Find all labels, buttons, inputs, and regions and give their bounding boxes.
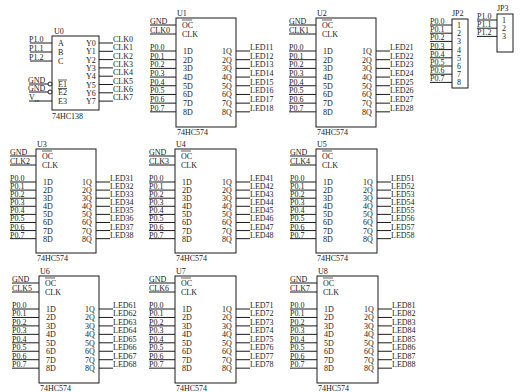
net-label: LED38 xyxy=(110,231,134,240)
net-label: LED22 xyxy=(390,52,414,61)
net-label: LED13 xyxy=(250,60,274,69)
ref-designator: U0 xyxy=(54,27,64,36)
net-label: P0.5 xyxy=(289,86,303,95)
net-label: CLK2 xyxy=(10,157,30,166)
latch-u1: U1GNDOCCLK0CLKP0.01D1QLED11P0.12D2QLED12… xyxy=(150,9,274,137)
ref-designator: U2 xyxy=(317,9,327,18)
pin-number: 8 xyxy=(457,78,461,87)
pin-name: 5Q xyxy=(362,82,372,91)
pin-name: 2D xyxy=(323,56,333,65)
net-label: LED27 xyxy=(390,95,414,104)
net-label: LED21 xyxy=(390,43,414,52)
part-number: 74HC574 xyxy=(37,254,68,263)
pin-name: 3D xyxy=(323,64,333,73)
pin-name: OC xyxy=(182,21,193,30)
vcc-label: Vcc xyxy=(29,93,40,103)
net-label: P0.4 xyxy=(150,78,164,87)
decoder-enables: GND GND Vcc E1 E2 E3 xyxy=(28,76,67,106)
net-label: GND xyxy=(149,275,167,284)
pin-name: 6D xyxy=(323,90,333,99)
pin-name: 7Q xyxy=(362,99,372,108)
pin-name: 8Q xyxy=(364,364,374,373)
latch-u8: U8GNDOCCLK7CLKP0.01D1QLED81P0.12D2QLED82… xyxy=(290,267,416,392)
net-label: CLK1 xyxy=(289,26,309,35)
pin-name: 7D xyxy=(183,99,193,108)
pin-name: 8Q xyxy=(362,108,372,117)
connector-jp3: JP3 P1.01P1.12P1.23 xyxy=(477,4,513,52)
pin-name: 1Q xyxy=(222,47,232,56)
ref-designator: U1 xyxy=(177,9,187,18)
net-label: P0.3 xyxy=(150,69,164,78)
pin-name: 3D xyxy=(183,64,193,73)
pin-name: 3Q xyxy=(362,64,372,73)
part-number: 74HC574 xyxy=(177,128,208,137)
net-label: LED26 xyxy=(390,86,414,95)
pin-name: C xyxy=(58,57,63,66)
pin-name: 3Q xyxy=(222,64,232,73)
ref-designator: U5 xyxy=(317,140,327,149)
net-label: P0.7 xyxy=(149,360,163,369)
ref-designator: U6 xyxy=(40,267,50,276)
schematic-canvas: U0 P1.0 P1.1 P1.2 A B C GND GND Vcc E1 E… xyxy=(0,0,528,392)
pin-name: CLK xyxy=(181,161,197,170)
ref-designator: JP3 xyxy=(497,4,509,13)
net-label: LED88 xyxy=(392,360,416,369)
pin-name: 7D xyxy=(323,99,333,108)
pin-name: 6D xyxy=(183,90,193,99)
net-label: LED78 xyxy=(250,360,274,369)
pin-name: OC xyxy=(322,152,333,161)
decoder-u0: U0 P1.0 P1.1 P1.2 A B C GND GND Vcc E1 E… xyxy=(28,27,133,121)
ref-designator: U4 xyxy=(176,140,186,149)
net-label: LED58 xyxy=(391,231,415,240)
pin-name: A xyxy=(58,39,64,48)
pin-name: OC xyxy=(323,279,334,288)
pin-name: 8Q xyxy=(85,364,95,373)
pin-name: 8D xyxy=(323,108,333,117)
net-label: CLK7 xyxy=(113,93,133,102)
net-label: P0.7 xyxy=(150,104,164,113)
pin-name: 5Q xyxy=(222,82,232,91)
net-label: GND xyxy=(12,275,30,284)
inversion-bubble-icon xyxy=(48,90,52,94)
pin-name: 2Q xyxy=(222,56,232,65)
net-label: LED11 xyxy=(250,43,273,52)
net-label: P0.1 xyxy=(289,52,303,61)
net-label: LED23 xyxy=(390,60,414,69)
decoder-inputs: P1.0 P1.1 P1.2 A B C xyxy=(29,35,64,66)
pin-name: 8D xyxy=(43,235,53,244)
pin-name: 8Q xyxy=(222,108,232,117)
net-label: P0.3 xyxy=(289,69,303,78)
net-label: GND xyxy=(290,148,308,157)
pin-name: CLK xyxy=(42,161,58,170)
latch-u7: U7GNDOCCLK6CLKP0.01D1QLED71P0.12D2QLED72… xyxy=(149,267,274,392)
net-label: LED16 xyxy=(250,86,274,95)
ref-designator: U7 xyxy=(176,267,186,276)
net-label: GND xyxy=(10,148,28,157)
pin-name: 8Q xyxy=(222,364,232,373)
net-label: P0.1 xyxy=(150,52,164,61)
pin-name: 2D xyxy=(183,56,193,65)
net-label: P0.7 xyxy=(290,360,304,369)
net-label: CLK0 xyxy=(150,26,170,35)
pin-name: 1Q xyxy=(362,47,372,56)
pin-name: 8Q xyxy=(82,235,92,244)
net-label: GND xyxy=(289,17,307,26)
part-number: 74HC574 xyxy=(176,254,207,263)
net-label: P0.5 xyxy=(150,86,164,95)
decoder-outputs: Y0CLK0Y1CLK1Y2CLK2Y3CLK3Y4CLK4Y5CLK5Y6CL… xyxy=(86,35,133,106)
net-label: CLK4 xyxy=(290,157,310,166)
net-label: P0.7 xyxy=(149,231,163,240)
pin-name: 4D xyxy=(323,73,333,82)
part-number: 74HC574 xyxy=(40,384,71,392)
net-label: P0.2 xyxy=(289,60,303,69)
net-label: CLK3 xyxy=(149,157,169,166)
latch-u5: U5GNDOCCLK4CLKP0.01D1QLED51P0.12D2QLED52… xyxy=(290,140,415,263)
net-label: P0.6 xyxy=(150,95,164,104)
pin-name: OC xyxy=(181,152,192,161)
net-label: P1.2 xyxy=(477,28,491,37)
net-label: P0.4 xyxy=(289,78,303,87)
net-label: LED25 xyxy=(390,78,414,87)
net-label: P1.0 xyxy=(29,35,43,44)
pin-name: CLK xyxy=(182,30,198,39)
pin-name: 6Q xyxy=(362,90,372,99)
